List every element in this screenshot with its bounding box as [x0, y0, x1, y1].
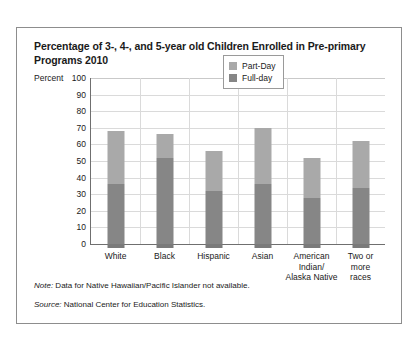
note-prefix: Note: [34, 281, 53, 290]
note-text: Data for Native Hawaiian/Pacific Islande… [55, 281, 249, 290]
stacked-bar [352, 141, 369, 244]
plot-area: 0102030405060708090100WhiteBlackHispanic… [90, 78, 385, 245]
source-text: National Center for Education Statistics… [64, 300, 205, 309]
y-axis-tick-label: 60 [77, 139, 86, 149]
legend-label-full-day: Full-day [242, 73, 272, 83]
stacked-bar [254, 128, 271, 244]
bar-group: Hispanic [189, 78, 238, 244]
bar-segment-part-day [107, 131, 124, 184]
bar-segment-part-day [205, 151, 222, 191]
y-axis-tick-label: 80 [77, 106, 86, 116]
chart-figure-frame: Percentage of 3-, 4-, and 5-year old Chi… [16, 27, 402, 324]
bar-group: AmericanIndian/Alaska Native [287, 78, 336, 244]
legend-swatch-full-day [229, 74, 237, 82]
y-axis-tick-label: 20 [77, 206, 86, 216]
bar-segment-part-day [254, 128, 271, 184]
chart-title: Percentage of 3-, 4-, and 5-year old Chi… [34, 40, 382, 67]
bar-segment-full-day [303, 198, 320, 244]
bar-group: Two ormoreraces [336, 78, 385, 244]
y-axis-tick-label: 70 [77, 123, 86, 133]
bar-segment-full-day [352, 188, 369, 244]
stacked-bar [303, 158, 320, 244]
source-prefix: Source: [34, 300, 62, 309]
y-axis-tick-label: 50 [77, 156, 86, 166]
y-axis-tick-label: 30 [77, 189, 86, 199]
x-axis-tick-mark [205, 244, 222, 248]
bar-segment-full-day [205, 191, 222, 244]
bar-segment-full-day [107, 184, 124, 244]
stacked-bar [107, 131, 124, 244]
legend-item-full-day: Full-day [229, 72, 276, 84]
stacked-bar [205, 151, 222, 244]
chart-note: Note: Data for Native Hawaiian/Pacific I… [34, 281, 250, 290]
y-axis-tick-label: 10 [77, 222, 86, 232]
chart-source: Source: National Center for Education St… [34, 300, 205, 309]
bar-group: Asian [238, 78, 287, 244]
legend-item-part-day: Part-Day [229, 60, 276, 72]
bar-group: Black [140, 78, 189, 244]
y-axis-tick-label: 90 [77, 90, 86, 100]
chart-legend: Part-Day Full-day [223, 55, 284, 89]
y-axis-title: Percent [34, 73, 63, 83]
x-axis-tick-mark [303, 244, 320, 248]
y-axis-tick-label: 40 [77, 173, 86, 183]
x-axis-tick-mark [352, 244, 369, 248]
bar-segment-full-day [156, 158, 173, 244]
x-axis-tick-mark [156, 244, 173, 248]
x-axis-tick-label: Two ormoreraces [326, 251, 396, 283]
bar-segment-full-day [254, 184, 271, 244]
bar-segment-part-day [352, 141, 369, 187]
bar-segment-part-day [303, 158, 320, 198]
y-axis-tick-label: 100 [72, 73, 86, 83]
legend-swatch-part-day [229, 62, 237, 70]
legend-label-part-day: Part-Day [242, 61, 276, 71]
bar-group: White [91, 78, 140, 244]
stacked-bar [156, 134, 173, 244]
x-axis-tick-mark [107, 244, 124, 248]
x-axis-tick-mark [254, 244, 271, 248]
y-axis-tick-label: 0 [81, 239, 86, 249]
bar-segment-part-day [156, 134, 173, 157]
